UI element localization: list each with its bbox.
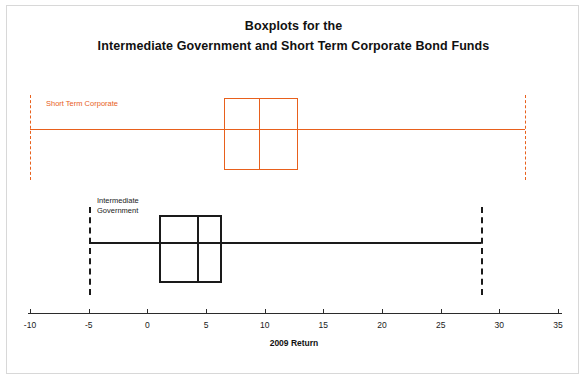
x-axis-title: 2009 Return [194, 338, 394, 348]
series-label-line-1: Intermediate [97, 196, 139, 206]
x-axis-tick-label: 15 [303, 320, 343, 330]
x-axis-tick [206, 309, 207, 314]
x-axis-tick-label: 0 [127, 320, 167, 330]
x-axis-tick-label: 10 [245, 320, 285, 330]
whisker-line [89, 242, 481, 244]
x-axis-tick-label: 35 [538, 320, 578, 330]
whisker-cap [525, 95, 526, 180]
x-axis-tick [323, 309, 324, 314]
x-axis-tick-label: 25 [421, 320, 461, 330]
median-line [259, 98, 260, 170]
x-axis-tick-label: 5 [186, 320, 226, 330]
x-axis-tick [30, 309, 31, 314]
x-axis-tick [382, 309, 383, 314]
whisker-cap [481, 207, 483, 295]
median-line [197, 215, 199, 283]
whisker-cap [89, 207, 91, 295]
boxplot-plot-area: -10-5051015202530352009 ReturnShort Term… [0, 0, 587, 382]
x-axis-line [28, 313, 562, 314]
box-iqr [159, 215, 222, 283]
series-label-short-term-corporate: Short Term Corporate [46, 99, 118, 109]
whisker-cap [30, 95, 31, 180]
x-axis-tick-label: 20 [362, 320, 402, 330]
x-axis-tick [558, 309, 559, 314]
series-label-intermediate-government: IntermediateGovernment [97, 196, 139, 216]
box-iqr [224, 98, 298, 170]
x-axis-tick [441, 309, 442, 314]
figure-canvas: Boxplots for the Intermediate Government… [0, 0, 587, 382]
x-axis-tick [89, 309, 90, 314]
x-axis-tick-label: -5 [69, 320, 109, 330]
x-axis-tick [147, 309, 148, 314]
x-axis-tick-label: -10 [10, 320, 50, 330]
x-axis-tick [499, 309, 500, 314]
x-axis-tick-label: 30 [479, 320, 519, 330]
x-axis-tick [265, 309, 266, 314]
series-label-line-2: Government [97, 206, 139, 216]
